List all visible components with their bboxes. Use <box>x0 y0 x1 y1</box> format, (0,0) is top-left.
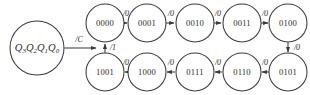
state-node-0001-label: 0001 <box>138 18 156 28</box>
state-node-0010-label: 0010 <box>186 18 204 28</box>
state-node-0100-label: 0100 <box>279 18 297 28</box>
edge-0110-0111-label: /0 <box>214 58 221 67</box>
edge-0001-0010-label: /0 <box>167 9 174 18</box>
state-node-0110-label: 0110 <box>233 67 251 77</box>
edge-entry-label: /C <box>74 35 83 44</box>
edge-0011-0100-label: /0 <box>261 9 268 18</box>
state-node-0111-label: 0111 <box>186 67 203 77</box>
edge-0111-1000-label: /0 <box>167 58 174 67</box>
state-node-0000-label: 0000 <box>96 18 114 28</box>
state-node-1001-label: 1001 <box>96 67 114 77</box>
state-node-0101-label: 0101 <box>279 67 297 77</box>
edge-0100-0101-label: /0 <box>293 43 300 52</box>
state-diagram-canvas: Q3Q2Q1Q0 /C /0 /0 /0 /0 /0 /0 /0 /0 /0 /… <box>0 0 310 95</box>
state-diagram-svg: Q3Q2Q1Q0 /C /0 /0 /0 /0 /0 /0 /0 /0 /0 /… <box>0 0 310 95</box>
state-node-0011-label: 0011 <box>233 18 251 28</box>
edge-0010-0011-label: /0 <box>214 9 221 18</box>
edge-1001-0000-label: /1 <box>109 43 116 52</box>
register-node-label: Q3Q2Q1Q0 <box>15 42 60 55</box>
state-node-1000-label: 1000 <box>138 67 156 77</box>
edge-0101-0110-label: /0 <box>261 58 268 67</box>
